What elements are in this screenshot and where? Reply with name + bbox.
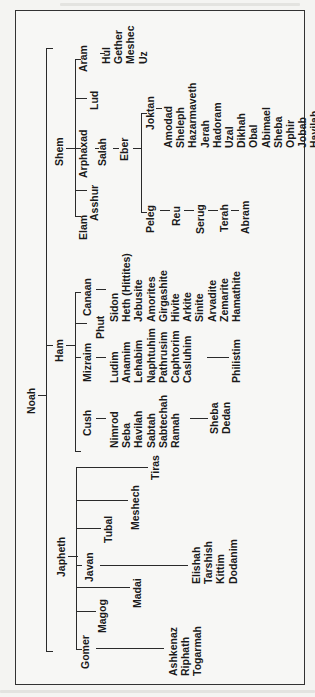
eber-spine (141, 113, 142, 213)
node-nimrod: Nimrod (108, 395, 120, 448)
node-mizraim: Mizraim (82, 343, 93, 382)
connector (76, 611, 96, 612)
connector (190, 418, 208, 419)
node-dedan: Dedan (220, 402, 232, 434)
node-serug: Serug (195, 204, 206, 234)
node-elam: Elam (78, 215, 89, 240)
connector (160, 210, 170, 211)
node-uz: Uz (137, 25, 149, 64)
node-heth: Heth (Hittites) (120, 253, 132, 322)
connector (96, 289, 106, 290)
node-cush: Cush (82, 410, 93, 436)
node-dikhah: Dikhah (235, 83, 247, 148)
node-jerah: Jerah (199, 83, 211, 148)
node-sinite: Sinite (193, 253, 205, 322)
node-sabtah: Sabtah (145, 395, 157, 448)
connector (76, 467, 148, 468)
node-casluhim: Casluhim (181, 328, 193, 383)
node-joktan: Joktan (145, 96, 156, 130)
connector (75, 190, 87, 191)
node-ramah: Ramah (169, 395, 181, 448)
node-dodanim: Dodanim (227, 539, 239, 584)
connector (207, 357, 229, 358)
connector (76, 528, 101, 529)
node-elishah: Elishah (190, 539, 202, 584)
node-ham: Ham (54, 339, 65, 362)
node-zemarite: Zemarite (218, 253, 230, 322)
connector (133, 148, 141, 149)
node-amodad: Amodad (162, 83, 174, 148)
node-girgashite: Girgashite (157, 253, 169, 322)
connector (208, 210, 218, 211)
node-uzal: Uzal (223, 83, 235, 148)
node-meshech: Meshech (130, 485, 141, 530)
node-togarmah: Togarmah (191, 626, 203, 676)
node-sabtechah: Sabtechah (157, 395, 169, 448)
connector (38, 395, 46, 396)
javan-sons-list: Elishah Tarshish Kittim Dodanim (190, 539, 239, 584)
node-havilah-joktan: Havilah (308, 83, 315, 148)
connector (100, 565, 188, 566)
node-meshec: Meshec (124, 25, 136, 64)
canaan-sons-list: Sidon Heth (Hittites) Jebusite Amorites … (108, 253, 242, 322)
node-havilah-cush: Havilah (132, 395, 144, 448)
node-ludim: Ludim (108, 328, 120, 383)
joktan-sons-list: Amodad Sheleph Hazarmaveth Jerah Hadoram… (162, 83, 315, 148)
connector (46, 651, 53, 652)
node-amorites: Amorites (145, 253, 157, 322)
node-tubal: Tubal (103, 516, 114, 543)
japheth-spine (76, 467, 77, 650)
node-hul: Hul (100, 25, 112, 64)
connector (96, 418, 106, 419)
node-gether: Gether (112, 25, 124, 64)
node-noah: Noah (26, 388, 37, 414)
node-hamathite: Hamathite (230, 253, 242, 322)
node-eber: Eber (119, 138, 130, 161)
node-lud: Lud (89, 91, 100, 110)
node-pathrusim: Pathrusim (157, 328, 169, 383)
node-jebusite: Jebusite (132, 253, 144, 322)
node-seba: Seba (120, 395, 132, 448)
node-naphtuhim: Naphtuhim (145, 328, 157, 383)
connector (75, 98, 87, 99)
node-madai: Madai (132, 578, 143, 608)
node-kittim: Kittim (214, 539, 226, 584)
node-riphath: Riphath (179, 626, 191, 676)
node-hadoram: Hadoram (211, 83, 223, 148)
connector (231, 210, 239, 211)
connector (76, 587, 130, 588)
node-peleg: Peleg (145, 205, 156, 233)
node-javan: Javan (84, 552, 95, 582)
node-caphtorim: Caphtorim (169, 328, 181, 383)
node-sheba-joktan: Sheba (272, 83, 284, 148)
node-aram: Aram (78, 45, 89, 72)
node-magog: Magog (97, 599, 108, 633)
node-shem: Shem (54, 137, 65, 166)
node-phut: Phut (95, 316, 106, 339)
connector (76, 500, 128, 501)
cush-sons-list: Nimrod Seba Havilah Sabtah Sabtechah Ram… (108, 395, 181, 448)
node-arkite: Arkite (181, 253, 193, 322)
node-lehabim: Lehabim (132, 328, 144, 383)
connector (96, 357, 106, 358)
node-gomer: Gomer (80, 635, 91, 669)
node-jobab: Jobab (296, 83, 308, 148)
node-philistim: Philistim (231, 339, 242, 383)
node-tarshish: Tarshish (202, 539, 214, 584)
node-abimael: Abimael (260, 83, 272, 148)
gomer-sons-list: Ashkenaz Riphath Togarmah (167, 626, 204, 676)
node-salah: Salah (97, 138, 108, 166)
node-anamim: Anamim (120, 328, 132, 383)
node-ashkenaz: Ashkenaz (167, 626, 179, 676)
node-asshur: Asshur (89, 185, 100, 221)
node-japheth: Japheth (56, 537, 67, 577)
node-sheleph: Sheleph (174, 83, 186, 148)
node-sheba-ramah: Sheba (208, 402, 220, 434)
node-reu: Reu (171, 206, 182, 226)
node-arphaxad: Arphaxad (78, 130, 89, 178)
node-terah: Terah (219, 204, 230, 232)
aram-sons-list: Hul Gether Meshec Uz (100, 25, 149, 64)
connector (75, 323, 87, 324)
connector (46, 345, 53, 346)
connector (96, 648, 164, 649)
